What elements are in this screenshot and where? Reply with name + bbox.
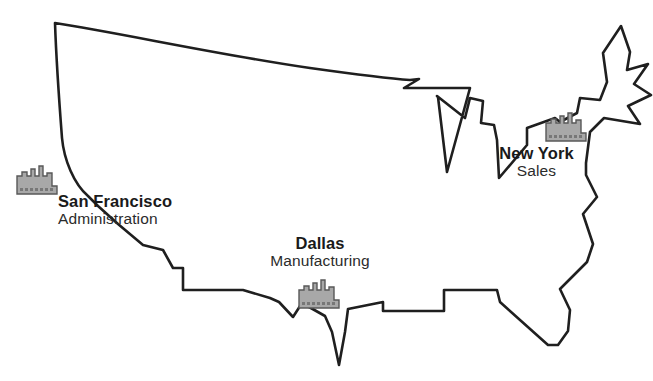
city-role: Sales: [484, 162, 589, 179]
city-role: Manufacturing: [250, 252, 390, 269]
city-label-group: New York Sales: [484, 144, 589, 180]
usa-outline-map: [0, 0, 653, 381]
city-label-group: Dallas Manufacturing: [250, 234, 390, 270]
city-name: Dallas: [250, 234, 390, 252]
city-role: Administration: [58, 210, 172, 227]
city-skyline-icon: [543, 110, 589, 144]
city-skyline-icon: [296, 277, 342, 311]
city-skyline-icon: [14, 163, 60, 197]
city-name: San Francisco: [58, 192, 172, 210]
city-name: New York: [484, 144, 589, 162]
usa-location-map: San Francisco Administration Dallas Manu…: [0, 0, 653, 381]
city-label-group: San Francisco Administration: [58, 192, 172, 228]
